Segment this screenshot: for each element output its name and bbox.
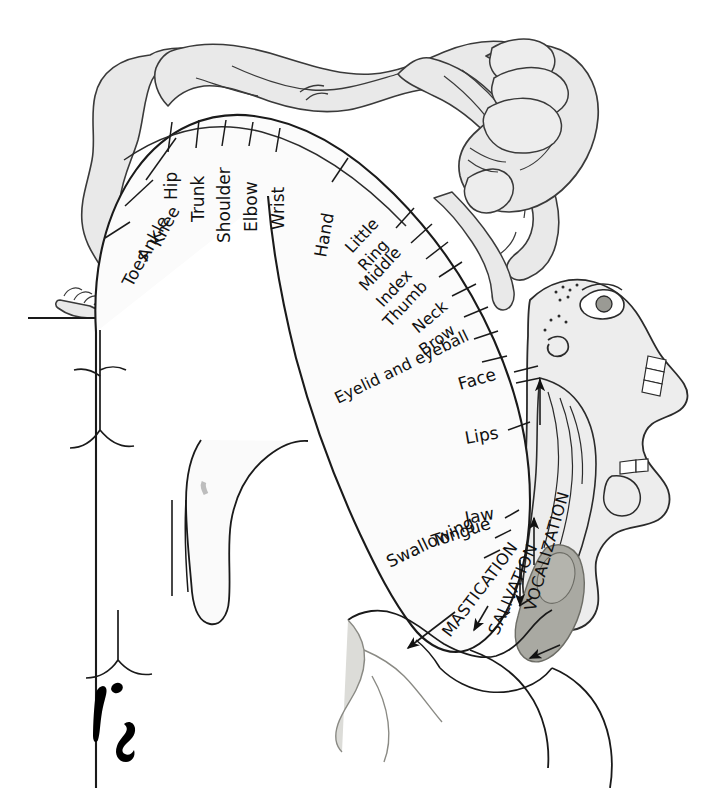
- label-trunk: Trunk: [188, 176, 208, 223]
- homunculus-canvas: Toes Ankle Knee Hip Trunk Shoulder Elbow…: [0, 0, 714, 788]
- label-elbow: Elbow: [241, 181, 261, 232]
- sulcus-band-path: [186, 440, 308, 624]
- sulcus-marks: [70, 330, 152, 678]
- label-shoulder: Shoulder: [214, 167, 234, 243]
- central-sulcus-band: [172, 432, 308, 624]
- label-wrist: Wrist: [268, 186, 288, 230]
- ink-marks: [93, 681, 135, 762]
- label-hip: Hip: [161, 172, 181, 200]
- motor-homunculus-figure: Toes Ankle Knee Hip Trunk Shoulder Elbow…: [0, 0, 714, 788]
